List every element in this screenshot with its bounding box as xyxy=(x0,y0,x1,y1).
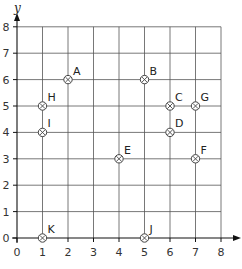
y-tick-label: 1 xyxy=(3,206,10,219)
tick-labels: 012345678012345678 xyxy=(3,21,225,259)
y-tick-label: 5 xyxy=(3,100,10,113)
data-point-g: G xyxy=(191,91,209,110)
x-tick-label: 7 xyxy=(192,246,199,259)
y-tick-label: 6 xyxy=(3,74,10,87)
data-point-e: E xyxy=(115,144,131,163)
data-point-k: K xyxy=(38,223,55,242)
y-axis-label: y xyxy=(13,1,21,15)
point-label: I xyxy=(48,117,51,130)
grid-lines xyxy=(17,27,221,238)
y-tick-label: 8 xyxy=(3,21,10,34)
data-point-f: F xyxy=(191,144,207,163)
x-tick-label: 3 xyxy=(90,246,97,259)
data-point-b: B xyxy=(140,65,157,84)
y-tick-label: 7 xyxy=(3,47,10,60)
data-point-h: H xyxy=(38,91,55,110)
data-point-a: A xyxy=(64,65,81,84)
point-label: B xyxy=(150,65,158,78)
point-label: C xyxy=(175,91,183,104)
data-point-d: D xyxy=(166,117,184,136)
point-label: E xyxy=(124,144,131,157)
x-tick-label: 8 xyxy=(218,246,225,259)
x-tick-label: 2 xyxy=(65,246,72,259)
x-tick-label: 4 xyxy=(116,246,123,259)
data-point-i: I xyxy=(38,117,50,136)
axes xyxy=(12,13,241,243)
x-tick-label: 0 xyxy=(14,246,21,259)
point-label: G xyxy=(201,91,210,104)
data-points: ABCDEFGHIJK xyxy=(38,65,209,243)
coordinate-grid-chart: 012345678012345678 ABCDEFGHIJK y xyxy=(0,0,242,269)
x-tick-label: 6 xyxy=(167,246,174,259)
y-tick-label: 3 xyxy=(3,153,10,166)
point-label: F xyxy=(201,144,207,157)
x-tick-label: 1 xyxy=(39,246,46,259)
x-tick-label: 5 xyxy=(141,246,148,259)
point-label: J xyxy=(149,223,153,236)
data-point-j: J xyxy=(140,223,152,242)
x-axis-arrow-icon xyxy=(233,235,241,241)
point-label: H xyxy=(48,91,56,104)
data-point-c: C xyxy=(166,91,183,110)
y-tick-label: 0 xyxy=(3,232,10,245)
point-label: A xyxy=(73,65,81,78)
point-label: D xyxy=(175,117,183,130)
point-label: K xyxy=(48,223,56,236)
y-tick-label: 4 xyxy=(3,126,10,139)
y-tick-label: 2 xyxy=(3,179,10,192)
